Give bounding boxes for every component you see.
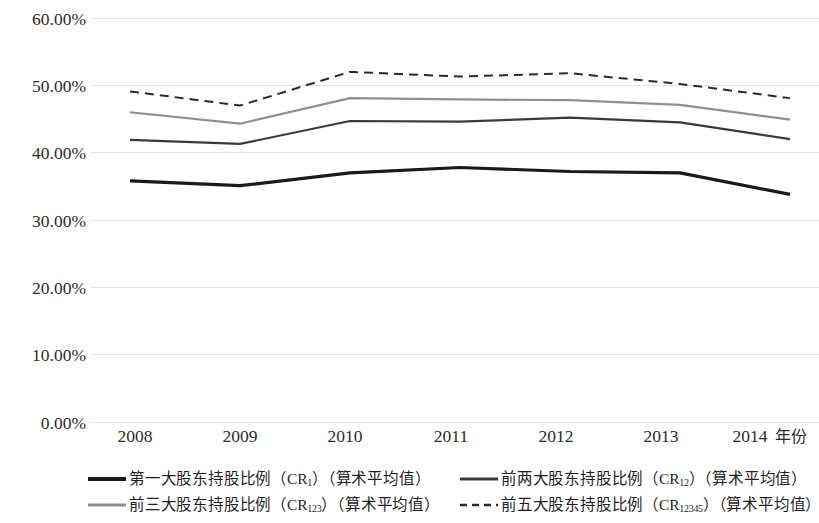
- x-axis-title: 年份: [775, 429, 807, 445]
- legend-item-cr12345[interactable]: 前五大股东持股比例（CR12345）（算术平均值）: [460, 496, 790, 514]
- series-line-2: [130, 98, 790, 124]
- y-tick-label: 50.00%: [0, 78, 86, 96]
- legend-label-cr12: 前两大股东持股比例（CR12）（算术平均值）: [501, 470, 807, 488]
- legend-line-swatch-cr123: [88, 499, 126, 511]
- y-tick-label: 20.00%: [0, 280, 86, 298]
- x-tick-label: 2013: [616, 428, 706, 446]
- x-tick-label: 2012: [511, 428, 601, 446]
- plot-area: [90, 18, 819, 422]
- line-chart: 60.00% 50.00% 40.00% 30.00% 20.00% 10.00…: [0, 0, 819, 523]
- y-tick-label: 40.00%: [0, 145, 86, 163]
- legend-line-swatch-cr12345: [460, 499, 498, 511]
- legend-label-cr12345: 前五大股东持股比例（CR12345）（算术平均值）: [501, 496, 819, 514]
- y-tick-label: 0.00%: [0, 415, 86, 433]
- legend-line-swatch-cr12: [460, 473, 498, 485]
- y-tick-label: 60.00%: [0, 11, 86, 29]
- legend-item-cr12[interactable]: 前两大股东持股比例（CR12）（算术平均值）: [460, 470, 790, 488]
- x-tick-label: 2011: [406, 428, 496, 446]
- legend-item-cr1[interactable]: 第一大股东持股比例（CR1）（算术平均值）: [88, 470, 460, 488]
- legend-label-cr123: 前三大股东持股比例（CR123）（算术平均值）: [129, 496, 440, 514]
- legend-label-cr1: 第一大股东持股比例（CR1）（算术平均值）: [129, 470, 430, 488]
- x-tick-label: 2010: [300, 428, 390, 446]
- y-tick-label: 30.00%: [0, 213, 86, 231]
- series-line-0: [130, 167, 790, 194]
- x-tick-label: 2008: [90, 428, 180, 446]
- chart-legend: 第一大股东持股比例（CR1）（算术平均值） 前两大股东持股比例（CR12）（算术…: [88, 466, 788, 518]
- y-tick-label: 10.00%: [0, 347, 86, 365]
- legend-item-cr123[interactable]: 前三大股东持股比例（CR123）（算术平均值）: [88, 496, 460, 514]
- gridline: [90, 422, 819, 423]
- x-tick-label: 2009: [195, 428, 285, 446]
- legend-line-swatch-cr1: [88, 473, 126, 485]
- series-lines: [90, 18, 819, 422]
